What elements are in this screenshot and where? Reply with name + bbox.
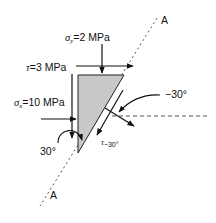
tau-result-label: τ−30°	[101, 139, 119, 148]
sigma-y-value: =2 MPa	[73, 31, 109, 43]
angle-minus-30-arc-arrow	[119, 95, 160, 112]
sigma-y-label: σy=2 MPa	[65, 32, 110, 45]
tau-label: τ=3 MPa	[26, 62, 66, 74]
sigma-x-value: =10 MPa	[22, 96, 64, 108]
stress-diagram: A A σy=2 MPa τ=3 MPa σx=10 MPa 30° −30° …	[0, 0, 216, 223]
tau-result-subscript: −30°	[104, 141, 119, 148]
angle-30-label: 30°	[40, 146, 56, 157]
axis-label-top: A	[161, 15, 168, 26]
axis-label-bottom: A	[50, 190, 57, 201]
sigma-x-label: σx=10 MPa	[14, 97, 65, 110]
angle-minus-30-label: −30°	[165, 89, 187, 100]
tau-value: =3 MPa	[30, 61, 66, 73]
